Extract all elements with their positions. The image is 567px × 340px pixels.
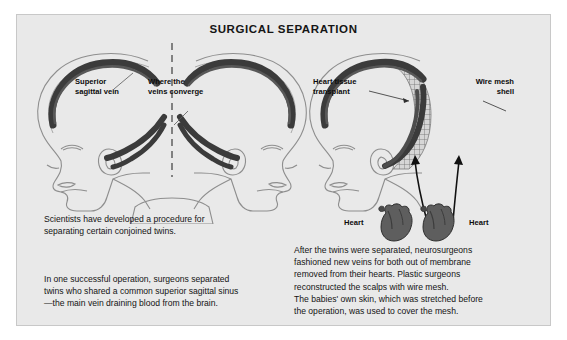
body-paragraph-right: After the twins were separated, neurosur…: [294, 244, 544, 317]
wire-mesh-leader: [483, 101, 506, 111]
arrowhead-right: [454, 155, 463, 165]
heart-left: [379, 204, 412, 241]
label-heart-right: Heart: [469, 218, 488, 227]
body-paragraph-left-1: Scientists have developed a procedure fo…: [44, 213, 294, 237]
body-paragraph-left-2: In one successful operation, surgeons se…: [44, 273, 299, 310]
label-superior-sagittal-vein: Superior sagittal vein: [75, 77, 119, 97]
page-title: SURGICAL SEPARATION: [17, 23, 550, 35]
label-wire-mesh-shell: Wire mesh shell: [454, 77, 514, 97]
label-veins-converge: Where the veins converge: [148, 77, 203, 97]
heart-right: [421, 204, 454, 241]
infographic-panel: SURGICAL SEPARATION: [16, 14, 551, 326]
label-heart-left: Heart: [344, 218, 363, 227]
label-heart-tissue-transplant: Heart tissue transplant: [313, 77, 356, 97]
left-diagram-conjoined: [38, 43, 307, 224]
anatomical-illustration: [17, 39, 551, 224]
heart-illustrations: [372, 201, 462, 245]
diagram-stage: [17, 39, 551, 224]
